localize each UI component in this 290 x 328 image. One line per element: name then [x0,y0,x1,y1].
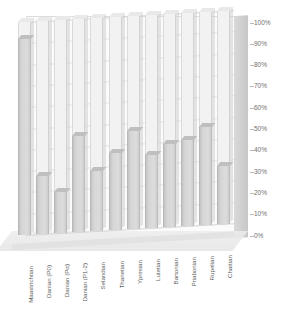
bar-value-fill [90,171,103,231]
y-axis-tick-label: 0% [254,232,263,239]
bar-column[interactable] [127,16,142,229]
bar-value-fill [163,144,176,227]
bar-column[interactable] [145,15,160,228]
bar-column[interactable] [181,13,196,226]
bar-value-fill [127,131,140,229]
y-axis-tick-label: 90% [254,40,267,47]
x-axis-tick-label: Maastrichtian [27,266,34,303]
bar-value-fill [54,192,67,232]
bar-depth-face [158,10,161,225]
y-axis-tick-label: 10% [254,210,267,217]
y-axis-tick-label: 20% [254,189,267,196]
y-axis-tick-label: 80% [254,61,267,68]
bar-value-fill [36,176,49,234]
x-axis-tick-label: Danian (P0) [45,265,52,298]
y-axis-tick-mark [250,236,254,237]
bar-depth-face [67,15,70,230]
bar-depth-face [85,14,88,229]
x-axis-tick-label: Danian (P1-2) [81,263,88,302]
y-axis: 0%10%20%30%40%50%60%70%80%90%100% [250,16,290,254]
x-axis-tick-label: Selandian [99,262,106,290]
bar-total-top-face [199,8,215,12]
bar-value-fill [217,166,230,224]
x-axis-tick-label: Ypresian [136,260,143,284]
y-axis-tick-mark [250,150,254,151]
bar-value-fill [199,127,212,225]
bar-series [12,16,248,251]
bar-column[interactable] [199,12,214,225]
bar-column[interactable] [163,14,178,227]
x-axis-tick-label: Lutetian [154,259,161,281]
chart-title [60,0,210,9]
x-axis-tick-label: Thanetian [118,261,125,289]
y-axis-tick-mark [250,108,254,109]
y-axis-tick-mark [250,65,254,66]
x-axis-tick-label: Rupelian [208,256,215,280]
bar-total-top-face [181,9,197,13]
plot-area [12,16,248,254]
bar-depth-face [176,9,179,224]
y-axis-tick-mark [250,86,254,87]
y-axis-tick-label: 40% [254,146,267,153]
bar-value-top-face [163,140,179,144]
bar-value-fill [109,153,122,230]
y-axis-tick-mark [250,214,254,215]
x-axis: MaastrichtianDanian (P0)Danian (Pα)Dania… [0,252,260,328]
bar-column[interactable] [18,22,33,235]
y-axis-tick-label: 70% [254,82,267,89]
bar-total-top-face [109,13,125,17]
x-axis-tick-label: Chattian [226,255,233,278]
y-axis-tick-label: 50% [254,125,267,132]
bar-depth-face [122,12,125,227]
x-axis-tick-label: Bartonian [172,258,179,285]
bar-value-fill [72,136,85,232]
bar-depth-face [103,13,106,228]
y-axis-tick-label: 30% [254,168,267,175]
bar-value-fill [18,39,31,235]
y-axis-tick-mark [250,172,254,173]
bar-column[interactable] [54,20,69,233]
bar-value-top-face [127,127,143,131]
bar-value-fill [145,155,158,227]
bar-value-fill [181,140,194,225]
bar-total-top-face [163,10,179,14]
bar-total-top-face [127,12,143,16]
bar-column[interactable] [72,19,87,232]
y-axis-tick-mark [250,193,254,194]
y-axis-tick-mark [250,44,254,45]
bar-depth-face [194,8,197,223]
bar-depth-face [212,7,215,222]
y-axis-tick-label: 100% [254,19,271,26]
y-axis-tick-mark [250,129,254,130]
bar-value-top-face [109,149,125,153]
y-axis-tick-mark [250,23,254,24]
bar-depth-face [31,17,34,232]
x-axis-tick-label: Priabonian [190,257,197,287]
y-axis-tick-label: 60% [254,104,267,111]
bar-depth-face [230,6,233,221]
x-axis-tick-label: Danian (Pα) [63,264,70,297]
bar-depth-face [49,16,52,231]
bar-total-top-face [145,11,161,15]
bar-column[interactable] [109,17,124,230]
bar-depth-face [140,11,143,226]
bar-column[interactable] [90,18,105,231]
chart-figure: 0%10%20%30%40%50%60%70%80%90%100% Maastr… [0,0,290,328]
bar-column[interactable] [217,11,232,224]
bar-column[interactable] [36,21,51,234]
